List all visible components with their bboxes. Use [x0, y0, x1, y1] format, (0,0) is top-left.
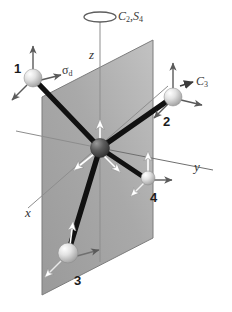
atom-3-label: 3: [74, 274, 81, 287]
atom-4-sphere[interactable]: [141, 171, 155, 185]
c3-axis-label: C3: [196, 75, 208, 89]
x-axis-label: x: [25, 206, 31, 219]
c3-axis-pointer: [180, 82, 193, 86]
z-axis-label: z: [89, 48, 94, 61]
mirror-plane-label: σd: [62, 64, 72, 78]
rotation-axis-label: C2,S4: [118, 10, 143, 24]
atom-2-sphere[interactable]: [164, 88, 182, 106]
atom-1-sphere[interactable]: [24, 69, 42, 87]
symmetry-diagram: C2,S4 z σd C3 y x 1 2 3 4: [0, 0, 232, 312]
atom-3-sphere[interactable]: [58, 243, 78, 263]
diagram-canvas: [0, 0, 232, 312]
atom-4-label: 4: [150, 191, 157, 204]
center-atom-sphere[interactable]: [91, 139, 110, 158]
y-axis-label: y: [194, 160, 200, 173]
rotation-axis-ellipse-icon: [84, 12, 116, 22]
atom-2-label: 2: [163, 115, 170, 128]
atom-1-label: 1: [14, 62, 21, 75]
